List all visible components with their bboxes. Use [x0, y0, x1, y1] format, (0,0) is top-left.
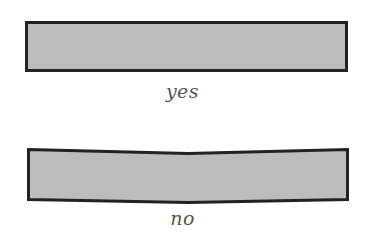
label-yes: yes [0, 80, 365, 102]
flat-board-shape [27, 23, 347, 71]
bowed-board-shape [29, 150, 348, 203]
label-no: no [0, 207, 365, 229]
diagram-canvas [0, 0, 365, 240]
